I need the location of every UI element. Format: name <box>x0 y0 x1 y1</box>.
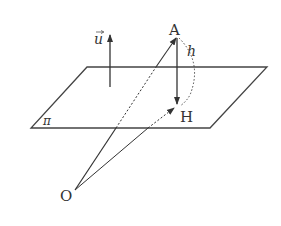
vector-OA-lower <box>75 128 116 190</box>
plane-pi <box>31 67 267 128</box>
vector-OH-lower <box>75 128 148 190</box>
vector-OA-hidden <box>116 67 156 128</box>
label-A: A <box>168 21 180 39</box>
vector-OH-hidden <box>148 108 174 128</box>
projection-diagram: A H O π h u <box>0 0 281 226</box>
vector-OA-upper <box>156 38 176 67</box>
label-H: H <box>180 108 193 126</box>
label-h: h <box>187 43 196 59</box>
label-pi: π <box>42 114 52 128</box>
label-O: O <box>60 187 72 205</box>
